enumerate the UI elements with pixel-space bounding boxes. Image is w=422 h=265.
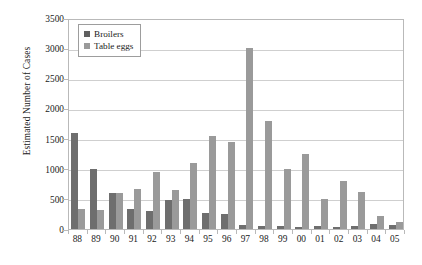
bar-table-eggs (377, 216, 384, 229)
y-axis-tick-label: 500 (26, 195, 64, 205)
bar-group (386, 20, 405, 229)
x-axis-tick-mark (367, 230, 368, 234)
x-axis-tick-mark (124, 230, 125, 234)
bar-group (312, 20, 331, 229)
bar-table-eggs (396, 222, 403, 229)
bar-group (349, 20, 368, 229)
bar-table-eggs (78, 209, 85, 229)
bar-group (144, 20, 163, 229)
x-axis-tick-mark (199, 230, 200, 234)
legend-swatch-icon (84, 43, 90, 49)
y-axis-tick-label: 1000 (26, 165, 64, 175)
x-axis-tick-mark (273, 230, 274, 234)
bar-table-eggs (246, 48, 253, 229)
y-axis-tick-label: 3500 (26, 14, 64, 24)
chart-legend: BroilersTable eggs (78, 24, 141, 57)
legend-item: Broilers (84, 28, 133, 40)
x-axis-tick-mark (329, 230, 330, 234)
bar-table-eggs (134, 189, 141, 229)
bar-group (274, 20, 293, 229)
bar-broilers (295, 227, 302, 229)
bar-group (162, 20, 181, 229)
x-axis-tick-mark (311, 230, 312, 234)
bar-table-eggs (116, 193, 123, 229)
x-axis-tick-mark (292, 230, 293, 234)
bar-broilers (90, 169, 97, 229)
x-axis-tick-mark (217, 230, 218, 234)
bar-table-eggs (302, 154, 309, 229)
bar-broilers (277, 226, 284, 229)
bar-table-eggs (340, 181, 347, 229)
y-axis-tick-label: 2500 (26, 74, 64, 84)
bar-broilers (165, 200, 172, 229)
x-axis-tick-mark (404, 230, 405, 234)
bar-broilers (239, 225, 246, 229)
x-axis-tick-mark (68, 230, 69, 234)
x-axis-tick-mark (143, 230, 144, 234)
y-axis-tick-label: 3000 (26, 44, 64, 54)
bar-table-eggs (284, 169, 291, 229)
y-axis-tick-label: 2000 (26, 104, 64, 114)
y-axis-tick-label: 1500 (26, 135, 64, 145)
bar-table-eggs (172, 190, 179, 229)
bar-broilers (370, 224, 377, 229)
x-axis-tick-mark (236, 230, 237, 234)
bar-table-eggs (190, 163, 197, 229)
bar-broilers (389, 225, 396, 229)
x-axis-tick-mark (87, 230, 88, 234)
bar-group (330, 20, 349, 229)
legend-label: Broilers (94, 28, 124, 40)
y-axis-title: Estimated Number of Cases (22, 16, 32, 186)
bar-group (293, 20, 312, 229)
bar-table-eggs (228, 142, 235, 229)
bar-group (368, 20, 387, 229)
bar-group (181, 20, 200, 229)
y-axis-tick-label: 0 (26, 225, 64, 235)
bar-group (256, 20, 275, 229)
bar-broilers (109, 193, 116, 229)
bar-broilers (202, 213, 209, 229)
bar-table-eggs (209, 136, 216, 229)
x-axis-tick-label: 05 (382, 234, 408, 244)
x-axis-tick-mark (255, 230, 256, 234)
bar-broilers (258, 226, 265, 229)
bar-group (218, 20, 237, 229)
legend-swatch-icon (84, 31, 90, 37)
bar-table-eggs (97, 210, 104, 229)
bar-table-eggs (321, 199, 328, 229)
bar-table-eggs (265, 121, 272, 230)
x-axis-tick-mark (385, 230, 386, 234)
bar-broilers (127, 209, 134, 229)
bar-broilers (221, 214, 228, 229)
bar-broilers (314, 226, 321, 229)
bar-broilers (146, 211, 153, 229)
bar-broilers (351, 226, 358, 229)
x-axis-tick-mark (180, 230, 181, 234)
bar-broilers (71, 133, 78, 229)
bar-group (237, 20, 256, 229)
x-axis-tick-mark (105, 230, 106, 234)
bar-chart-figure: Estimated Number of Cases 05001000150020… (0, 0, 422, 265)
x-axis-tick-mark (161, 230, 162, 234)
x-axis-tick-mark (348, 230, 349, 234)
bar-broilers (333, 227, 340, 229)
bar-table-eggs (153, 172, 160, 229)
bar-table-eggs (358, 192, 365, 229)
bar-group (200, 20, 219, 229)
legend-item: Table eggs (84, 40, 133, 52)
legend-label: Table eggs (94, 40, 133, 52)
bar-broilers (183, 199, 190, 229)
